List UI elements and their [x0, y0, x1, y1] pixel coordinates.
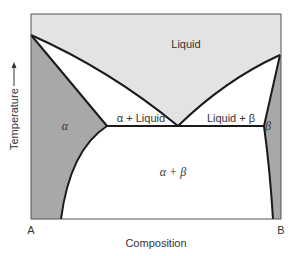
- axis-label-b: B: [277, 224, 284, 236]
- axis-label-a: A: [27, 224, 35, 236]
- label-alpha: α: [62, 119, 69, 133]
- label-alpha-beta: α + β: [160, 165, 186, 179]
- label-beta: β: [264, 119, 271, 133]
- phase-diagram: Liquid α + Liquid Liquid + β α β α + β A…: [0, 0, 297, 256]
- label-alpha-liquid: α + Liquid: [117, 112, 165, 124]
- up-arrow-icon: [12, 62, 17, 86]
- y-axis-label-group: Temperature: [8, 88, 20, 150]
- y-axis-label: Temperature: [8, 88, 20, 150]
- label-liquid-beta: Liquid + β: [207, 112, 255, 124]
- x-axis-label: Composition: [125, 237, 186, 249]
- label-liquid: Liquid: [171, 38, 200, 50]
